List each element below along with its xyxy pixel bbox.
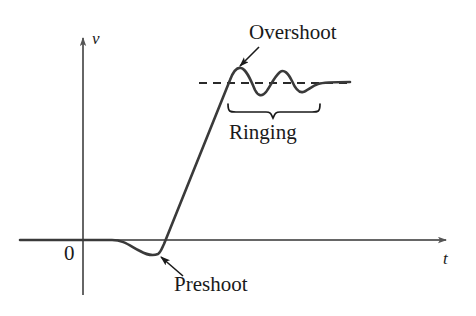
step-response-curve (20, 68, 350, 255)
ringing-label: Ringing (229, 122, 297, 143)
ringing-brace (228, 104, 320, 118)
overshoot-label: Overshoot (249, 22, 337, 43)
overshoot-arrow (240, 47, 259, 66)
step-response-figure: Overshoot Ringing Preshoot 0 v t (0, 0, 476, 316)
t-axis-label: t (443, 250, 448, 267)
preshoot-label: Preshoot (174, 274, 248, 295)
figure-canvas (0, 0, 476, 316)
v-axis-label: v (92, 30, 100, 47)
origin-label: 0 (64, 243, 75, 264)
